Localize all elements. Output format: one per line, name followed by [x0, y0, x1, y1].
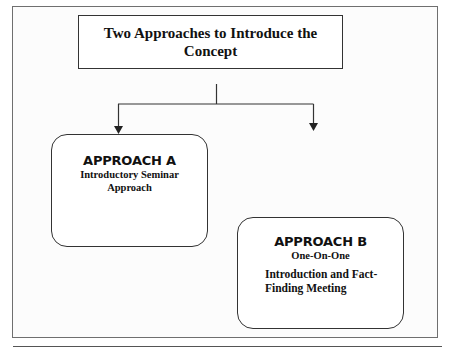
approach-b-box: APPROACH B One-On-One Introduction and F…: [237, 217, 404, 329]
bottom-rule: [13, 346, 442, 347]
arrow-down-icon: [114, 126, 123, 134]
approach-b-description: Introduction and Fact-Finding Meeting: [238, 267, 403, 295]
approach-a-subtitle: Introductory Seminar Approach: [52, 168, 207, 194]
approach-b-heading: APPROACH B: [238, 234, 403, 249]
arrow-down-icon: [309, 123, 318, 131]
approach-a-box: APPROACH A Introductory Seminar Approach: [51, 134, 208, 247]
approach-b-subtitle: One-On-One: [238, 249, 403, 262]
approach-a-heading: APPROACH A: [52, 153, 207, 168]
